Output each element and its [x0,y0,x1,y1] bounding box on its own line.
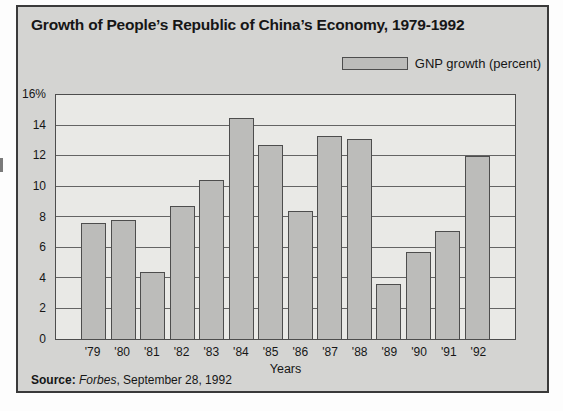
legend-swatch [342,57,408,70]
y-tick-label: 12 [33,148,46,162]
legend-label: GNP growth (percent) [415,56,541,71]
x-tick-label: '89 [376,345,403,359]
source-publication: Forbes [79,373,116,387]
source-label: Source: [31,373,76,387]
bar-84 [229,118,254,339]
x-tick-label: '87 [317,345,344,359]
chart-title: Growth of People’s Republic of China’s E… [31,16,464,34]
legend: GNP growth (percent) [342,56,541,71]
x-tick-label: '85 [257,345,284,359]
plot-area [55,94,516,340]
x-axis-labels: '79'80'81'82'83'84'85'86'87'88'89'90'91'… [55,345,516,359]
bar-79 [81,223,106,339]
y-tick-label: 2 [39,301,46,315]
y-tick-label: 16% [22,87,46,101]
source-line: Source: Forbes, September 28, 1992 [31,373,232,387]
x-tick-label: '81 [138,345,165,359]
bar-86 [288,211,313,339]
bar-82 [170,206,195,339]
bar-85 [258,145,283,339]
bar-83 [199,180,224,339]
x-tick-label: '82 [168,345,195,359]
bar-90 [406,252,431,339]
y-axis-labels: 0246810121416% [18,94,49,339]
bar-91 [435,231,460,339]
scan-artifact [0,158,3,172]
x-tick-label: '92 [465,345,492,359]
x-tick-label: '80 [109,345,136,359]
bar-80 [111,220,136,339]
bar-81 [140,272,165,339]
y-tick-label: 14 [33,118,46,132]
x-tick-label: '91 [435,345,462,359]
bar-88 [347,139,372,339]
y-tick-label: 4 [39,271,46,285]
x-tick-label: '88 [346,345,373,359]
y-tick-label: 0 [39,332,46,346]
source-rest: , September 28, 1992 [116,373,231,387]
x-tick-label: '90 [406,345,433,359]
y-tick-label: 6 [39,240,46,254]
y-tick-label: 10 [33,179,46,193]
y-tick-label: 8 [39,210,46,224]
bar-92 [465,156,490,339]
x-tick-label: '79 [79,345,106,359]
bar-89 [376,284,401,339]
bar-series [56,95,515,339]
x-tick-label: '84 [227,345,254,359]
bar-87 [317,136,342,339]
x-tick-label: '83 [198,345,225,359]
figure-panel: Growth of People’s Republic of China’s E… [16,5,549,393]
x-tick-label: '86 [287,345,314,359]
